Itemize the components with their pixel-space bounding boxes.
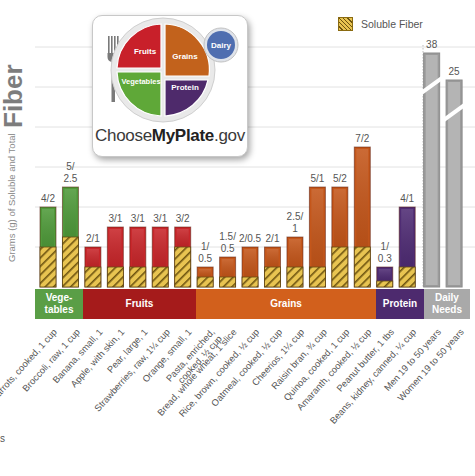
bar-highlight xyxy=(154,229,166,266)
bar-soluble xyxy=(197,277,213,287)
brand-suffix: .gov xyxy=(214,126,245,145)
bar-data-label: 1/ xyxy=(381,241,390,252)
bar-data-label: 38 xyxy=(426,39,438,50)
bar-highlight xyxy=(109,229,121,266)
bar-highlight xyxy=(289,239,301,266)
group-band-protein: Protein xyxy=(376,289,424,319)
plate-protein-label: Protein xyxy=(171,83,199,92)
bar-data-label: 3/2 xyxy=(176,213,190,224)
legend: Soluble Fiber xyxy=(338,17,423,31)
plate-fruits-label: Fruits xyxy=(134,47,157,56)
plate-section-grains xyxy=(165,24,209,76)
bar-soluble xyxy=(220,277,236,287)
bar-soluble xyxy=(242,277,258,287)
group-band-label-line: Needs xyxy=(432,304,462,315)
group-band-label: Protein xyxy=(383,298,417,310)
bar-soluble xyxy=(399,267,415,287)
bar-data-label: 5/1 xyxy=(310,173,324,184)
group-band-label: Grains xyxy=(270,298,302,310)
group-band-vegetables: Vege-tables xyxy=(35,289,83,319)
group-band-label: DailyNeeds xyxy=(432,292,462,316)
group-band-label-line: Grains xyxy=(270,298,302,309)
plate-vegetables-label: Vegetables xyxy=(121,77,160,86)
y-axis-label-fiber: Fiber xyxy=(0,64,29,128)
choosemyplate-brand: ChooseMyPlate.gov xyxy=(93,126,247,146)
bar-highlight xyxy=(244,249,256,276)
group-band-grains: Grains xyxy=(196,289,376,319)
bar-highlight xyxy=(379,269,391,280)
bar-highlight xyxy=(87,249,99,266)
stray-text: s xyxy=(0,433,5,444)
soluble-fiber-swatch-icon xyxy=(338,17,353,31)
bar-highlight xyxy=(311,189,323,266)
bar-data-label: 0.5 xyxy=(221,243,235,254)
bar-data-label: 25 xyxy=(449,66,461,77)
bar-highlight xyxy=(334,189,346,246)
bar-soluble xyxy=(85,267,101,287)
plate-grains-label: Grains xyxy=(172,52,198,61)
bar-data-label: 2/1 xyxy=(86,233,100,244)
myplate-graphic: Dairy Fruits Grains Vegetables Protein xyxy=(93,16,247,128)
group-band-label: Vege-tables xyxy=(45,292,74,316)
group-band-label-line: tables xyxy=(45,304,74,315)
bar-data-label: 2/0.5 xyxy=(239,233,262,244)
bar-soluble xyxy=(40,247,56,287)
myplate-logo: Dairy Fruits Grains Vegetables Protein C… xyxy=(92,15,248,157)
bar-data-label: 1/ xyxy=(201,241,210,252)
bar-highlight xyxy=(42,209,54,246)
bar-soluble xyxy=(309,267,325,287)
group-band-daily: DailyNeeds xyxy=(424,289,470,319)
bar-soluble xyxy=(175,247,191,287)
group-band-label-line: Daily xyxy=(435,292,459,303)
bar-data-label: 3/1 xyxy=(131,213,145,224)
bar-data-label: 1 xyxy=(292,223,298,234)
bar-data-label: 1.5/ xyxy=(219,231,236,242)
bar-highlight xyxy=(222,259,234,276)
y-axis-label: Grams (g) of Soluble and Total xyxy=(6,133,17,262)
bar-soluble xyxy=(152,267,168,287)
bar-data-label: 0.3 xyxy=(378,253,392,264)
bar-highlight xyxy=(64,189,76,236)
bar-data-label: 2/1 xyxy=(266,233,280,244)
bar-soluble xyxy=(62,237,78,287)
bar-highlight xyxy=(177,229,189,246)
bar-data-label: 4/2 xyxy=(41,193,55,204)
legend-label: Soluble Fiber xyxy=(361,18,423,30)
bar-highlight xyxy=(401,209,413,266)
bar-data-label: 0.5 xyxy=(198,253,212,264)
bar-highlight xyxy=(267,249,279,266)
brand-prefix: Choose xyxy=(95,126,152,145)
bar-soluble xyxy=(332,247,348,287)
group-band-label-line: Vege- xyxy=(46,292,73,303)
bar-highlight xyxy=(356,149,368,246)
bar-data-label: 3/1 xyxy=(108,213,122,224)
plate-section-fruits xyxy=(117,24,161,68)
bar-highlight xyxy=(132,229,144,266)
bar-data-label: 3/1 xyxy=(153,213,167,224)
bar-data-label: 7/2 xyxy=(355,133,369,144)
bar-data-label: 5/ xyxy=(66,161,75,172)
bar-soluble xyxy=(107,267,123,287)
bar-data-label: 2.5/ xyxy=(287,211,304,222)
group-band-label-line: Fruits xyxy=(126,298,154,309)
bar-data-label: 4/1 xyxy=(400,193,414,204)
bar-highlight xyxy=(199,269,211,276)
bar-soluble xyxy=(265,267,281,287)
group-band-fruits: Fruits xyxy=(83,289,196,319)
bar-soluble xyxy=(377,281,393,287)
group-band-label: Fruits xyxy=(126,298,154,310)
group-band-label-line: Protein xyxy=(383,298,417,309)
bar-soluble xyxy=(354,247,370,287)
brand-bold: MyPlate xyxy=(152,126,214,145)
bar-soluble xyxy=(287,267,303,287)
bar-data-label: 5/2 xyxy=(333,173,347,184)
bar-soluble xyxy=(130,267,146,287)
dairy-label: Dairy xyxy=(211,41,232,50)
bar-data-label: 2.5 xyxy=(63,173,77,184)
